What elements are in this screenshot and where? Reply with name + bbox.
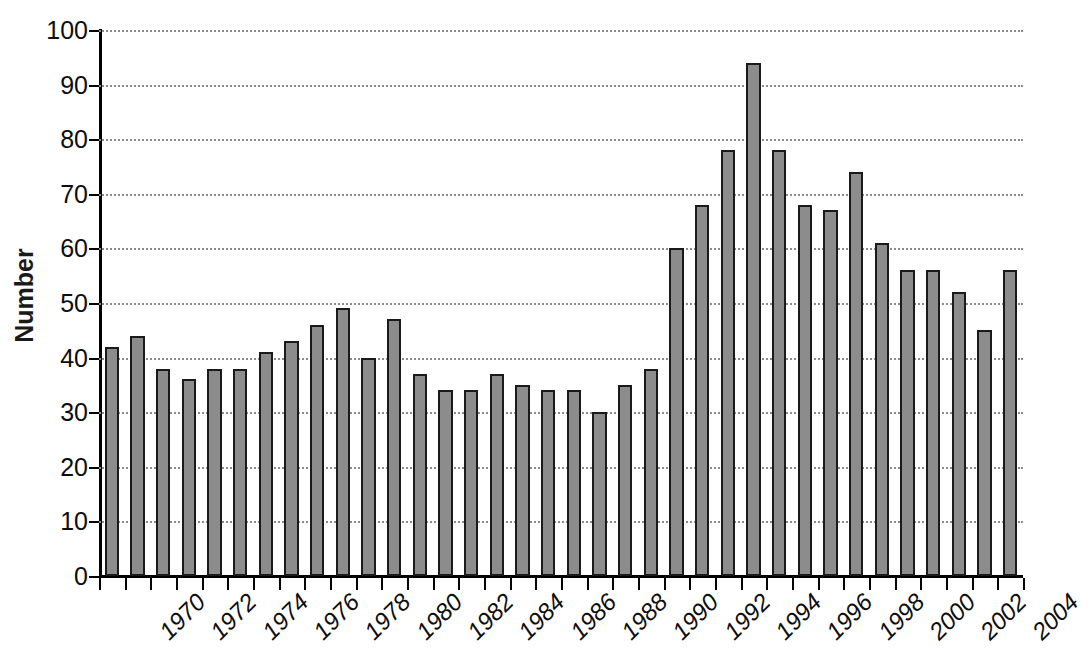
bar: [849, 172, 863, 576]
x-axis-tick-label: 1974: [256, 588, 314, 646]
bar: [1003, 270, 1017, 576]
y-axis-tick: [89, 194, 99, 196]
y-axis-tick-label: 20: [60, 452, 88, 481]
bar: [952, 292, 966, 576]
x-axis-tick-label: 1998: [872, 588, 930, 646]
y-axis-tick-label: 30: [60, 398, 88, 427]
bar: [310, 325, 324, 576]
x-axis-tick-label: 1996: [821, 588, 879, 646]
y-axis-title-text: Number: [10, 248, 39, 342]
y-axis-tick: [89, 85, 99, 87]
x-axis-tick-label: 2000: [923, 588, 981, 646]
bar: [875, 243, 889, 576]
x-axis-tick-label: 1976: [307, 588, 365, 646]
bar: [105, 347, 119, 576]
x-axis-tick: [1023, 578, 1025, 590]
x-axis-tick-label: 1972: [205, 588, 263, 646]
y-axis-tick-label: 0: [74, 562, 88, 591]
bar: [182, 379, 196, 576]
x-axis-tick-label: 2002: [975, 588, 1033, 646]
y-axis-tick-label: 80: [60, 125, 88, 154]
x-axis-tick-label: 1980: [410, 588, 468, 646]
bar: [361, 358, 375, 576]
bar: [567, 390, 581, 576]
bars-layer: [99, 30, 1023, 576]
plot-area: [99, 30, 1023, 576]
x-axis-tick-label: 1988: [615, 588, 673, 646]
bar: [772, 150, 786, 576]
x-axis-tick-label: 1984: [513, 588, 571, 646]
bar: [413, 374, 427, 576]
y-axis-tick: [89, 248, 99, 250]
y-axis-tick: [89, 467, 99, 469]
y-axis-tick-labels: 0102030405060708090100: [40, 0, 96, 590]
x-axis-tick-label: 1978: [359, 588, 417, 646]
bar: [746, 63, 760, 576]
y-axis-tick-label: 60: [60, 234, 88, 263]
bar: [156, 369, 170, 576]
x-axis-tick-label: 1982: [461, 588, 519, 646]
bar: [284, 341, 298, 576]
bar: [515, 385, 529, 576]
y-axis-tick-label: 100: [46, 16, 88, 45]
y-axis-tick: [89, 412, 99, 414]
y-axis-tick: [89, 139, 99, 141]
x-axis-tick-label: 1970: [153, 588, 211, 646]
y-axis-tick-label: 50: [60, 289, 88, 318]
bar: [695, 205, 709, 576]
y-axis-tick-label: 10: [60, 507, 88, 536]
bar: [490, 374, 504, 576]
bar: [438, 390, 452, 576]
bar: [926, 270, 940, 576]
y-axis-tick-label: 90: [60, 70, 88, 99]
y-axis-tick-label: 70: [60, 179, 88, 208]
bar: [977, 330, 991, 576]
y-axis-tick: [89, 30, 99, 32]
bar: [669, 248, 683, 576]
x-axis-tick-label: 1990: [667, 588, 725, 646]
bar: [259, 352, 273, 576]
y-axis-tick-label: 40: [60, 343, 88, 372]
bar: [798, 205, 812, 576]
y-axis-tick: [89, 576, 99, 578]
y-axis-tick: [89, 521, 99, 523]
bar: [618, 385, 632, 576]
x-axis-tick-label: 2004: [1026, 588, 1082, 646]
bar: [541, 390, 555, 576]
x-axis-tick-label: 1986: [564, 588, 622, 646]
bar: [721, 150, 735, 576]
bar: [130, 336, 144, 576]
bar: [464, 390, 478, 576]
bar: [823, 210, 837, 576]
bar: [592, 412, 606, 576]
bar: [644, 369, 658, 576]
bar: [900, 270, 914, 576]
y-axis-tick: [89, 358, 99, 360]
x-axis-tick-label: 1992: [718, 588, 776, 646]
bar: [387, 319, 401, 576]
bar: [336, 308, 350, 576]
x-axis-tick-labels: 1970197219741976197819801982198419861988…: [99, 588, 1023, 666]
x-axis-tick-label: 1994: [769, 588, 827, 646]
bar: [233, 369, 247, 576]
bar: [207, 369, 221, 576]
y-axis-tick: [89, 303, 99, 305]
